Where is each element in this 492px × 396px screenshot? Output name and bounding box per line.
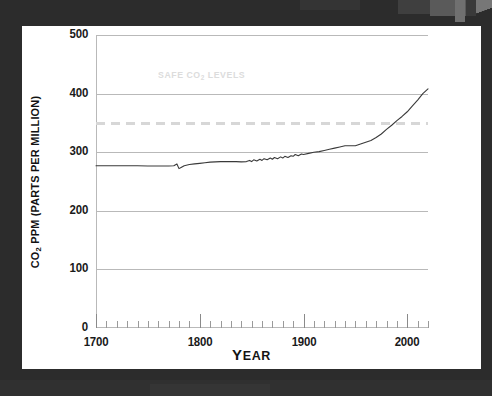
plot-area: SAFE CO2 LEVELS <box>96 35 428 328</box>
chart-card: CO2 PPM (PARTS PER MILLION) 010020030040… <box>22 26 481 369</box>
background-texture-patch <box>0 380 492 396</box>
background-texture-patch <box>466 0 492 16</box>
y-tick-label-500: 500 <box>69 26 88 41</box>
y-axis-title: CO2 PPM (PARTS PER MILLION) <box>24 26 46 337</box>
background-texture-patch <box>150 384 270 396</box>
co2-line-series <box>96 35 428 328</box>
y-tick-label-400: 400 <box>69 85 88 100</box>
background-texture-patch <box>398 0 430 14</box>
background-texture-patch <box>476 0 492 24</box>
y-axis-title-pre: CO <box>29 251 41 268</box>
y-axis-title-post: PPM (PARTS PER MILLION) <box>29 95 41 246</box>
y-tick-label-0: 0 <box>82 319 88 334</box>
y-tick-label-300: 300 <box>69 143 88 158</box>
background-texture-patch <box>430 0 466 16</box>
background-texture-patch <box>300 0 360 10</box>
y-tick-label-100: 100 <box>69 260 88 275</box>
x-axis-title: YEAR <box>22 346 481 363</box>
y-axis-title-subscript: 2 <box>34 247 43 251</box>
screenshot-root: CO2 PPM (PARTS PER MILLION) 010020030040… <box>0 0 492 396</box>
y-tick-label-200: 200 <box>69 202 88 217</box>
background-texture-patch <box>455 0 465 22</box>
x-tick-mark-2020 <box>428 321 429 328</box>
